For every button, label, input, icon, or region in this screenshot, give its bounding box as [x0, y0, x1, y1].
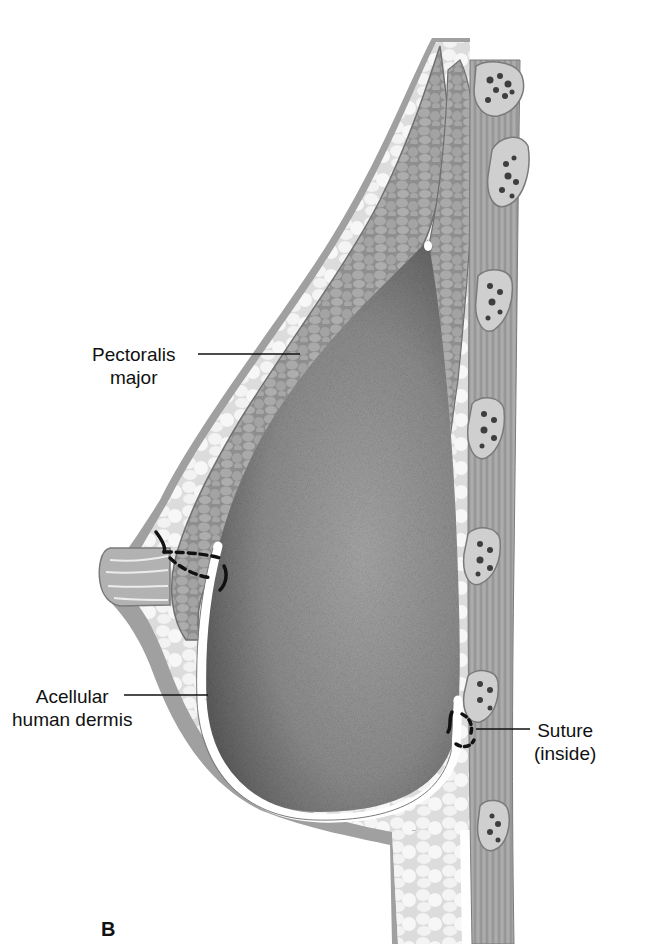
panel-letter: B [101, 918, 115, 941]
pocket-apex [424, 241, 432, 251]
label-pectoralis-major: Pectoralis major [92, 343, 175, 389]
label-suture-inside: Suture (inside) [534, 719, 596, 765]
label-acellular-human-dermis: Acellular human dermis [12, 685, 132, 731]
nipple [99, 548, 170, 606]
breast-reconstruction-illustration [0, 0, 648, 944]
rib [488, 137, 529, 206]
inframammary-fat [392, 826, 462, 944]
